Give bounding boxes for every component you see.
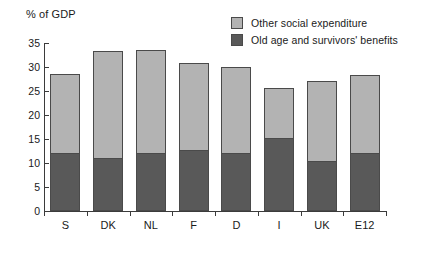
y-axis-tick-mark <box>44 91 49 92</box>
y-axis-tick-35: 35 <box>28 37 44 49</box>
bar-D <box>221 67 251 211</box>
bar-S <box>50 74 80 211</box>
plot-area: 05101520253035SDKNLFDIUKE12 <box>44 43 386 211</box>
y-axis-tick-mark <box>44 115 49 116</box>
bar-segment-old-age-DK <box>93 158 123 211</box>
y-axis-tick-label: 35 <box>28 37 40 49</box>
bar-segment-old-age-D <box>221 153 251 211</box>
bar-segment-other-social-NL <box>136 50 166 155</box>
bars-layer <box>44 43 386 211</box>
x-axis-tick-mark <box>87 211 88 216</box>
bar-segment-other-social-I <box>264 88 294 139</box>
y-axis-tick-15: 15 <box>28 133 44 145</box>
y-axis-tick-20: 20 <box>28 109 44 121</box>
bar-segment-old-age-NL <box>136 153 166 211</box>
y-axis-tick-mark <box>44 187 49 188</box>
y-axis-tick-label: 15 <box>28 133 40 145</box>
x-axis-tick-mark <box>130 211 131 216</box>
legend-label-other-social-expenditure: Other social expenditure <box>251 17 367 29</box>
x-axis-tick-mark <box>386 211 387 216</box>
bar-I <box>264 88 294 211</box>
y-axis-title: % of GDP <box>26 8 76 20</box>
y-axis-tick-0: 0 <box>34 205 44 217</box>
x-axis-label-DK: DK <box>100 219 115 231</box>
bar-segment-other-social-D <box>221 67 251 155</box>
x-axis-label-F: F <box>190 219 197 231</box>
bar-segment-old-age-S <box>50 153 80 211</box>
y-axis-tick-30: 30 <box>28 61 44 73</box>
x-axis-tick-mark <box>343 211 344 216</box>
y-axis-tick-mark <box>44 139 49 140</box>
y-axis-tick-label: 10 <box>28 157 40 169</box>
x-axis-label-I: I <box>278 219 281 231</box>
y-axis-tick-mark <box>44 67 49 68</box>
bar-E12 <box>350 75 380 211</box>
x-axis-tick-mark <box>301 211 302 216</box>
x-axis-label-S: S <box>62 219 69 231</box>
y-axis-tick-5: 5 <box>34 181 44 193</box>
y-axis-tick-label: 30 <box>28 61 40 73</box>
y-axis-tick-label: 20 <box>28 109 40 121</box>
legend-swatch-icon-other-social-expenditure <box>231 17 243 29</box>
bar-UK <box>307 81 337 211</box>
bar-segment-other-social-E12 <box>350 75 380 154</box>
y-axis-tick-label: 5 <box>34 181 40 193</box>
bar-segment-old-age-E12 <box>350 153 380 211</box>
x-axis-label-UK: UK <box>314 219 329 231</box>
bar-segment-old-age-I <box>264 138 294 211</box>
bar-NL <box>136 50 166 211</box>
x-axis-tick-mark <box>172 211 173 216</box>
bar-segment-other-social-S <box>50 74 80 154</box>
bar-segment-old-age-F <box>179 150 209 211</box>
y-axis-tick-10: 10 <box>28 157 44 169</box>
bar-DK <box>93 51 123 211</box>
y-axis-tick-label: 0 <box>34 205 40 217</box>
bar-F <box>179 63 209 211</box>
bar-segment-other-social-F <box>179 63 209 151</box>
x-axis-tick-mark <box>44 211 45 216</box>
x-axis-label-E12: E12 <box>355 219 375 231</box>
x-axis-tick-mark <box>258 211 259 216</box>
legend-item-other-social-expenditure: Other social expenditure <box>231 14 398 31</box>
y-axis-tick-label: 25 <box>28 85 40 97</box>
x-axis-label-D: D <box>232 219 240 231</box>
x-axis-tick-mark <box>215 211 216 216</box>
bar-segment-old-age-UK <box>307 161 337 211</box>
y-axis-tick-25: 25 <box>28 85 44 97</box>
bar-segment-other-social-UK <box>307 81 337 162</box>
y-axis-tick-mark <box>44 163 49 164</box>
x-axis-label-NL: NL <box>144 219 158 231</box>
y-axis-tick-mark <box>44 43 49 44</box>
stacked-bar-chart: % of GDP Other social expenditure Old ag… <box>0 0 426 253</box>
bar-segment-other-social-DK <box>93 51 123 159</box>
